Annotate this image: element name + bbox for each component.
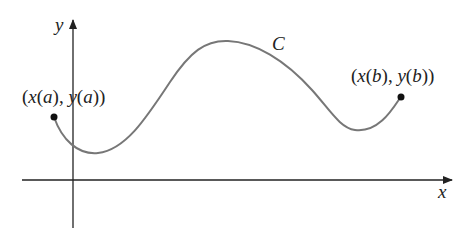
end-point [398, 94, 405, 101]
end-point-label: (x(b), y(b)) [351, 65, 434, 87]
start-point-label: (x(a), y(a)) [22, 86, 105, 108]
parametric-curve-diagram: y x C (x(a), y(a)) (x(b), y(b)) [0, 0, 463, 246]
curve-c [54, 41, 400, 153]
x-axis-label: x [437, 181, 447, 202]
start-point [51, 114, 58, 121]
curve-label: C [272, 33, 285, 54]
y-axis-label: y [53, 14, 64, 35]
